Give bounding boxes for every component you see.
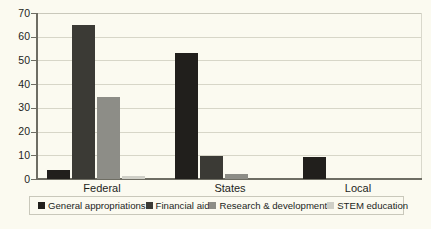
y-axis-tick-mark [31,13,36,14]
y-axis-tick-mark [31,108,36,109]
y-axis-tick-mark [31,37,36,38]
legend-swatch-icon [146,202,153,209]
x-axis-category-label: Local [294,182,422,195]
legend-label: Financial aid [156,200,210,211]
legend-label: Research & development [219,200,327,211]
bar-chart: 706050403020100 FederalStatesLocal Gener… [0,0,431,229]
bar [200,156,223,179]
y-axis-tick-mark [31,179,36,180]
y-axis-tick-mark [31,155,36,156]
legend-item[interactable]: Research & development [209,200,327,211]
x-axis-category-label: Federal [38,182,166,195]
legend-item[interactable]: Financial aid [146,200,210,211]
legend-item[interactable]: General appropriations [38,200,146,211]
bar [72,25,95,179]
x-axis-category-label: States [166,182,294,195]
y-axis-tick-label: 30 [6,102,30,112]
legend-item[interactable]: STEM education [327,200,408,211]
bar [303,157,326,179]
y-axis-tick-label: 70 [6,8,30,18]
y-axis-tick-label: 50 [6,55,30,65]
y-axis-tick-label: 0 [6,174,30,184]
y-axis-tick-label: 60 [6,31,30,41]
y-axis-tick-label: 20 [6,126,30,136]
bar [225,174,248,179]
y-axis-tick-label: 40 [6,79,30,89]
bars-layer [38,13,422,179]
bar [47,170,70,179]
legend-label: General appropriations [48,200,146,211]
legend-swatch-icon [209,202,216,209]
y-axis-tick-label: 10 [6,150,30,160]
legend-swatch-icon [38,202,45,209]
y-axis-tick-mark [31,84,36,85]
bar [97,97,120,179]
bar [122,176,145,179]
legend-label: STEM education [337,200,408,211]
y-axis-tick-mark [31,60,36,61]
bar [175,53,198,179]
y-axis-tick-mark [31,132,36,133]
legend-swatch-icon [327,202,334,209]
chart-legend: General appropriationsFinancial aidResea… [29,196,404,215]
y-axis-labels: 706050403020100 [0,0,30,229]
